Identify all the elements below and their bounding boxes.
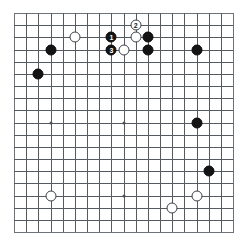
stone-black-7[interactable]: 3: [106, 44, 117, 55]
grid-line-horizontal-10: [14, 135, 234, 136]
stone-white-0[interactable]: [69, 32, 80, 43]
go-diagram-app: 123: [0, 0, 248, 249]
grid-line-horizontal-14: [14, 183, 234, 184]
stone-white-13[interactable]: [45, 190, 56, 201]
stone-black-3[interactable]: 1: [106, 32, 117, 43]
star-point-7: [122, 194, 125, 197]
stone-black-1[interactable]: [45, 44, 56, 55]
star-point-4: [122, 121, 125, 124]
stone-black-6[interactable]: [142, 32, 153, 43]
stone-black-11[interactable]: [191, 117, 202, 128]
grid-line-horizontal-13: [14, 171, 234, 172]
grid-line-horizontal-17: [14, 220, 234, 221]
stone-move-number: 3: [109, 46, 113, 53]
stone-black-9[interactable]: [142, 44, 153, 55]
star-point-3: [49, 121, 52, 124]
stone-black-10[interactable]: [191, 44, 202, 55]
stone-black-2[interactable]: [33, 68, 44, 79]
grid-line-horizontal-18: [14, 232, 234, 233]
stone-white-14[interactable]: [191, 190, 202, 201]
go-board[interactable]: 123: [14, 13, 233, 232]
grid-line-vertical-14: [184, 13, 185, 233]
stone-white-15[interactable]: [167, 202, 178, 213]
stone-black-12[interactable]: [203, 166, 214, 177]
grid-line-vertical-10: [136, 13, 137, 233]
stone-move-number: 2: [134, 22, 138, 29]
grid-line-vertical-12: [160, 13, 161, 233]
grid-line-horizontal-11: [14, 147, 234, 148]
grid-line-horizontal-16: [14, 208, 234, 209]
board-area: 123: [0, 0, 248, 249]
stone-white-8[interactable]: [118, 44, 129, 55]
grid-line-vertical-13: [172, 13, 173, 233]
grid-line-horizontal-12: [14, 159, 234, 160]
grid-line-vertical-17: [221, 13, 222, 233]
stone-white-4[interactable]: 2: [130, 20, 141, 31]
stone-move-number: 1: [109, 34, 113, 41]
grid-line-vertical-18: [233, 13, 234, 233]
stone-white-5[interactable]: [130, 32, 141, 43]
grid-line-vertical-16: [209, 13, 210, 233]
